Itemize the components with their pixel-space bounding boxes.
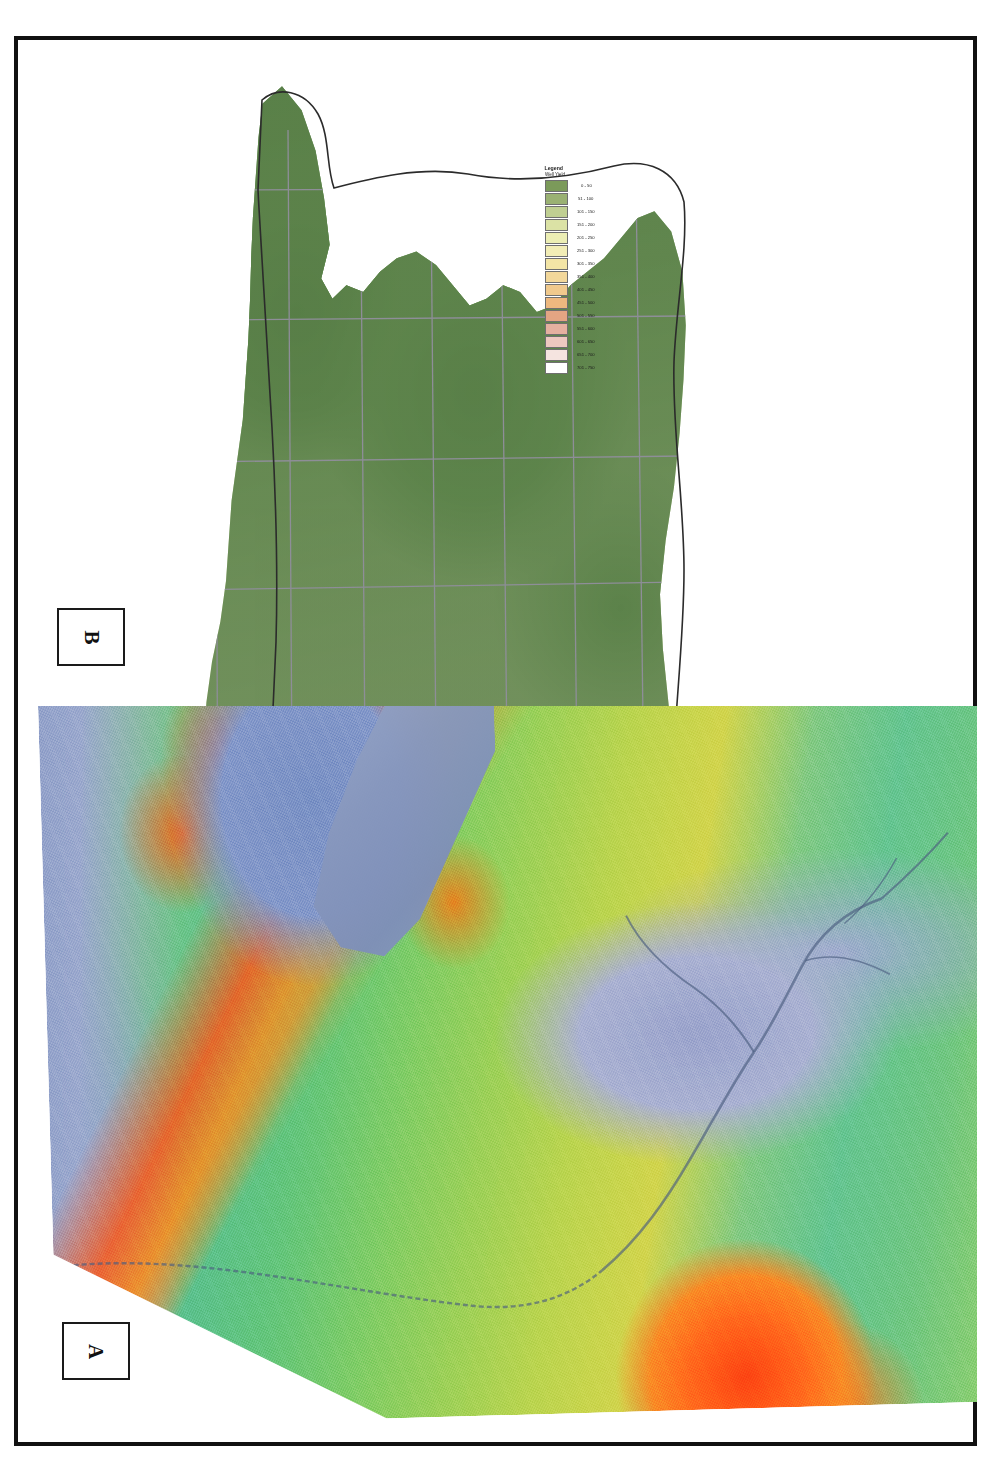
panel-letter-b: B (57, 608, 125, 666)
legend-item-label: 501 - 550 (569, 314, 603, 318)
panel-letter-b-text: B (78, 630, 103, 644)
legend-item: 501 - 550 (545, 310, 603, 322)
legend-item-label: 251 - 300 (569, 249, 603, 253)
legend-item-swatch (545, 271, 568, 283)
legend-item: 451 - 500 (545, 297, 603, 309)
legend-item-swatch (545, 258, 568, 270)
legend-item: 351 - 400 (545, 271, 603, 283)
legend-item-swatch (545, 297, 568, 309)
legend-item-label: 551 - 600 (569, 327, 603, 331)
panel-letter-a-text: A (83, 1343, 108, 1358)
legend-item: 301 - 350 (545, 258, 603, 270)
legend-item: 701 - 750 (545, 362, 603, 374)
legend-item-label: 0 - 50 (569, 184, 603, 188)
river-network (38, 706, 977, 1428)
legend-item-label: 401 - 450 (569, 288, 603, 292)
legend-item-label: 151 - 200 (569, 223, 603, 227)
legend-item: 201 - 250 (545, 232, 603, 244)
legend-item-swatch (545, 219, 568, 231)
legend-item-label: 51 - 100 (569, 197, 603, 201)
legend-item: 651 - 700 (545, 349, 603, 361)
legend-item-swatch (545, 362, 568, 374)
legend-item: 101 - 150 (545, 206, 603, 218)
legend-item: 551 - 600 (545, 323, 603, 335)
legend-item-label: 451 - 500 (569, 301, 603, 305)
panel-letter-a: A (62, 1322, 130, 1380)
legend-item-swatch (545, 245, 568, 257)
legend-title: Legend (545, 166, 563, 171)
legend-item: 0 - 50 (545, 180, 603, 192)
dem-image-wrap (38, 706, 977, 1428)
legend-item: 251 - 300 (545, 245, 603, 257)
legend-items: 0 - 5051 - 100101 - 150151 - 200201 - 25… (545, 180, 603, 374)
legend-item-swatch (545, 180, 568, 192)
legend-item-swatch (545, 310, 568, 322)
legend-item-label: 651 - 700 (569, 353, 603, 357)
legend-item-swatch (545, 193, 568, 205)
legend-item-label: 701 - 750 (569, 366, 603, 370)
legend-item-swatch (545, 336, 568, 348)
legend-item-label: 301 - 350 (569, 262, 603, 266)
legend-item: 151 - 200 (545, 219, 603, 231)
legend-item-swatch (545, 349, 568, 361)
figure-page: CdP Legend Well Yield 0 - 5051 - 100101 … (0, 0, 991, 1480)
legend-item: 601 - 650 (545, 336, 603, 348)
legend-subtitle: Well Yield (545, 173, 565, 178)
panel-a: Giants Range Mississippi River Minnesota… (18, 706, 977, 1442)
legend-item-swatch (545, 284, 568, 296)
legend-item-swatch (545, 206, 568, 218)
legend-item-label: 101 - 150 (569, 210, 603, 214)
legend-item-label: 201 - 250 (569, 236, 603, 240)
legend-item-label: 351 - 400 (569, 275, 603, 279)
legend-item: 401 - 450 (545, 284, 603, 296)
legend-item: 51 - 100 (545, 193, 603, 205)
legend-item-label: 601 - 650 (569, 340, 603, 344)
legend-item-swatch (545, 323, 568, 335)
legend-item-swatch (545, 232, 568, 244)
map-legend: Legend Well Yield 0 - 5051 - 100101 - 15… (545, 166, 597, 286)
